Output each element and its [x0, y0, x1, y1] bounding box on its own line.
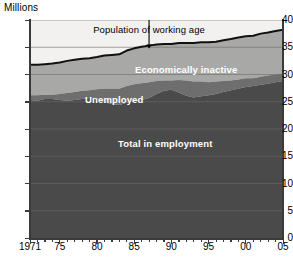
x-tick-mark — [275, 239, 276, 242]
area-total-in-employment — [30, 81, 283, 238]
y-tick-mark — [25, 101, 29, 102]
chart-figure: Millions 4035302520151050 19717580859095… — [0, 0, 293, 260]
plot-area — [30, 20, 283, 238]
x-tick-mark — [82, 239, 83, 242]
x-tick-mark — [193, 239, 194, 242]
x-tick-mark — [253, 239, 254, 242]
x-tick-mark — [149, 239, 150, 242]
x-tick-mark — [44, 239, 45, 242]
x-tick-mark — [111, 239, 112, 242]
x-tick-mark — [268, 239, 269, 242]
x-tick-mark — [186, 239, 187, 242]
x-tick-mark — [178, 239, 179, 242]
x-tick-mark — [156, 239, 157, 242]
x-tick-mark — [283, 239, 284, 244]
y-tick-label: 35 — [269, 42, 293, 52]
y-tick-label: 10 — [269, 179, 293, 189]
y-tick-mark — [25, 238, 29, 239]
x-tick-mark — [163, 239, 164, 242]
x-tick-mark — [89, 239, 90, 242]
x-tick-mark — [126, 239, 127, 242]
x-tick-mark — [59, 239, 60, 244]
band-label-economically-inactive: Economically inactive — [135, 64, 237, 75]
band-label-unemployed: Unemployed — [85, 94, 144, 105]
x-tick-mark — [208, 239, 209, 244]
y-tick-label: 5 — [269, 206, 293, 216]
x-tick-mark — [141, 239, 142, 242]
x-tick-mark — [30, 239, 31, 244]
x-tick-mark — [67, 239, 68, 242]
y-tick-label: 15 — [269, 151, 293, 161]
y-tick-mark — [25, 47, 29, 48]
x-tick-mark — [238, 239, 239, 242]
y-tick-mark — [25, 183, 29, 184]
x-tick-mark — [52, 239, 53, 242]
y-axis-line — [29, 19, 31, 239]
x-tick-mark — [96, 239, 97, 244]
x-tick-mark — [245, 239, 246, 244]
x-tick-mark — [74, 239, 75, 242]
y-tick-label: 25 — [269, 97, 293, 107]
x-tick-mark — [119, 239, 120, 242]
x-tick-mark — [260, 239, 261, 242]
y-tick-mark — [25, 74, 29, 75]
annotation-population-of-working-age: Population of working age — [93, 24, 205, 35]
x-tick-mark — [230, 239, 231, 242]
y-tick-mark — [25, 129, 29, 130]
stacked-area-svg — [30, 20, 283, 238]
x-tick-mark — [37, 239, 38, 242]
y-tick-label: 30 — [269, 70, 293, 80]
y-tick-mark — [25, 156, 29, 157]
y-tick-label: 40 — [269, 15, 293, 25]
band-label-total-in-employment: Total in employment — [118, 138, 213, 149]
x-tick-mark — [104, 239, 105, 242]
x-tick-mark — [216, 239, 217, 242]
x-tick-mark — [201, 239, 202, 242]
x-tick-mark — [171, 239, 172, 244]
y-tick-mark — [25, 210, 29, 211]
x-tick-mark — [223, 239, 224, 242]
x-tick-mark — [134, 239, 135, 244]
y-tick-mark — [25, 20, 29, 21]
y-axis-unit-label: Millions — [4, 2, 38, 13]
y-tick-label: 20 — [269, 124, 293, 134]
